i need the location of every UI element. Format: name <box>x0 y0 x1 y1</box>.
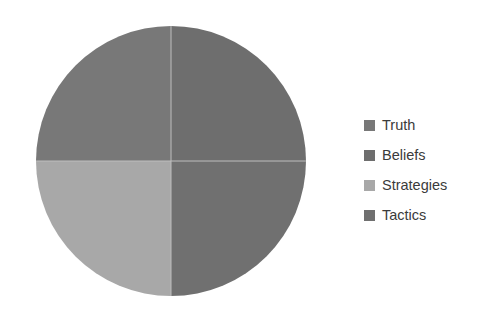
legend-item-label: Strategies <box>382 178 447 193</box>
pie-slice-strategies[interactable] <box>36 161 171 296</box>
pie-svg <box>36 26 306 296</box>
legend-swatch-icon <box>364 180 375 191</box>
legend-item-truth[interactable]: Truth <box>364 110 484 140</box>
legend-item-strategies[interactable]: Strategies <box>364 170 484 200</box>
legend-item-label: Beliefs <box>382 148 426 163</box>
chart-legend: Truth Beliefs Strategies Tactics <box>364 110 484 230</box>
pie-chart-plot <box>36 26 306 296</box>
legend-item-beliefs[interactable]: Beliefs <box>364 140 484 170</box>
legend-item-tactics[interactable]: Tactics <box>364 200 484 230</box>
legend-swatch-icon <box>364 210 375 221</box>
pie-slice-truth[interactable] <box>36 26 171 161</box>
legend-item-label: Tactics <box>382 208 426 223</box>
legend-item-label: Truth <box>382 118 415 133</box>
pie-slice-tactics[interactable] <box>171 161 306 296</box>
legend-swatch-icon <box>364 150 375 161</box>
pie-chart-figure: Truth Beliefs Strategies Tactics <box>0 0 490 321</box>
legend-swatch-icon <box>364 120 375 131</box>
pie-slice-beliefs[interactable] <box>171 26 306 161</box>
